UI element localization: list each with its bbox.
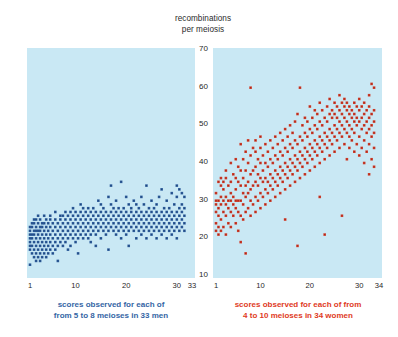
data-point-core	[156, 226, 157, 227]
data-point-core	[250, 87, 251, 88]
y-axis-tick-label: 10	[188, 270, 208, 279]
data-point-core	[359, 121, 360, 122]
data-point-core	[108, 215, 109, 216]
data-point-core	[280, 166, 281, 167]
data-point-core	[136, 238, 137, 239]
data-point-core	[257, 159, 258, 160]
data-point-core	[50, 234, 51, 235]
data-point-core	[156, 204, 157, 205]
data-point-core	[88, 208, 89, 209]
data-point-core	[55, 211, 56, 212]
data-point-core	[98, 215, 99, 216]
data-point-core	[46, 242, 47, 243]
data-point-core	[336, 129, 337, 130]
data-point-core	[262, 170, 263, 171]
data-point-core	[243, 204, 244, 205]
data-point-core	[33, 230, 34, 231]
data-point-core	[319, 196, 320, 197]
data-point-core	[235, 223, 236, 224]
data-point-core	[50, 219, 51, 220]
data-point-core	[344, 106, 345, 107]
data-point-core	[371, 125, 372, 126]
data-point-core	[225, 204, 226, 205]
data-point-core	[31, 226, 32, 227]
data-point-core	[29, 230, 30, 231]
data-point-core	[169, 208, 170, 209]
data-point-core	[141, 211, 142, 212]
data-point-core	[361, 117, 362, 118]
data-point-core	[275, 181, 276, 182]
data-point-core	[235, 189, 236, 190]
data-point-core	[95, 211, 96, 212]
data-point-core	[215, 223, 216, 224]
data-point-core	[354, 113, 355, 114]
data-point-core	[225, 177, 226, 178]
data-point-core	[265, 144, 266, 145]
data-point-core	[225, 170, 226, 171]
data-point-core	[38, 242, 39, 243]
data-point-core	[33, 234, 34, 235]
data-point-core	[230, 211, 231, 212]
data-point-core	[339, 121, 340, 122]
data-point-core	[233, 196, 234, 197]
data-point-core	[312, 132, 313, 133]
data-point-core	[128, 204, 129, 205]
data-point-core	[174, 223, 175, 224]
data-point-core	[131, 208, 132, 209]
data-point-core	[60, 242, 61, 243]
data-point-core	[38, 249, 39, 250]
data-point-core	[294, 140, 295, 141]
data-point-core	[70, 211, 71, 212]
data-point-core	[243, 219, 244, 220]
data-point-core	[44, 215, 45, 216]
data-point-core	[146, 226, 147, 227]
data-point-core	[270, 200, 271, 201]
data-point-core	[105, 211, 106, 212]
data-point-core	[364, 125, 365, 126]
data-point-core	[156, 219, 157, 220]
data-point-core	[35, 226, 36, 227]
data-point-core	[60, 215, 61, 216]
data-point-core	[93, 208, 94, 209]
data-point-core	[57, 245, 58, 246]
data-point-core	[108, 196, 109, 197]
data-point-core	[72, 238, 73, 239]
data-point-core	[331, 110, 332, 111]
data-point-core	[245, 170, 246, 171]
data-point-core	[153, 223, 154, 224]
data-point-core	[123, 208, 124, 209]
x-axis-tick-label: 34	[371, 281, 387, 290]
data-point-core	[280, 132, 281, 133]
data-point-core	[65, 226, 66, 227]
data-point-core	[292, 147, 293, 148]
data-point-core	[220, 185, 221, 186]
data-point-core	[118, 215, 119, 216]
data-point-core	[88, 238, 89, 239]
data-point-core	[309, 106, 310, 107]
data-point-core	[44, 253, 45, 254]
data-point-core	[304, 117, 305, 118]
data-point-core	[280, 193, 281, 194]
y-axis-tick-label: 70	[188, 44, 208, 53]
data-point-core	[83, 215, 84, 216]
data-point-core	[181, 211, 182, 212]
data-point-core	[176, 219, 177, 220]
data-point-core	[248, 140, 249, 141]
data-point-core	[307, 136, 308, 137]
data-point-core	[44, 245, 45, 246]
data-point-core	[289, 170, 290, 171]
data-point-core	[77, 215, 78, 216]
data-point-core	[215, 204, 216, 205]
data-point-core	[138, 215, 139, 216]
data-point-core	[317, 129, 318, 130]
data-point-core	[344, 98, 345, 99]
data-point-core	[55, 234, 56, 235]
data-point-core	[297, 144, 298, 145]
data-point-core	[304, 159, 305, 160]
data-point-core	[245, 196, 246, 197]
data-point-core	[255, 181, 256, 182]
data-point-core	[339, 132, 340, 133]
data-point-core	[225, 215, 226, 216]
data-point-core	[289, 144, 290, 145]
data-point-core	[299, 177, 300, 178]
